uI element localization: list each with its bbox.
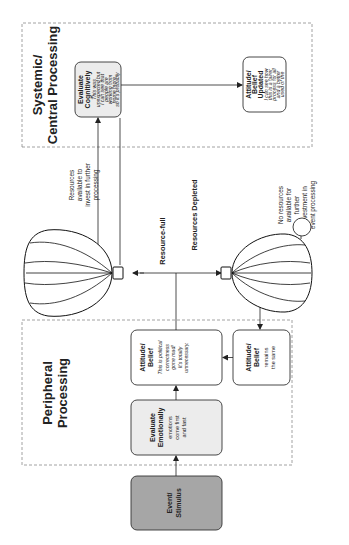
- svg-text:the same: the same: [270, 346, 276, 369]
- svg-text:and fast: and fast: [181, 417, 187, 437]
- svg-text:available to: available to: [76, 168, 83, 201]
- svg-text:Belief: Belief: [147, 347, 154, 367]
- svg-text:correctness: correctness: [164, 344, 170, 371]
- hot-air-balloon-icon: [24, 230, 123, 317]
- svg-text:further: further: [293, 195, 300, 214]
- attitude-belief-node: Attitude/ Belief This is political corre…: [131, 330, 222, 385]
- svg-text:Belief: Belief: [253, 347, 260, 367]
- svg-text:unnecessary.: unnecessary.: [183, 342, 189, 372]
- attitude-belief-updated-node: Attitude/ Belief Updated I can see how t…: [243, 57, 286, 112]
- svg-text:Stimulus: Stimulus: [175, 488, 182, 518]
- svg-text:so it's probably: so it's probably: [114, 72, 120, 107]
- evaluate-cognitively-node: Evaluate Cognitively This was unexpected…: [75, 62, 121, 117]
- svg-text:Resources: Resources: [68, 170, 75, 201]
- svg-text:Attitude/: Attitude/: [245, 343, 252, 371]
- svg-text:available for: available for: [285, 187, 292, 222]
- evaluate-emotionally-node: Evaluate Emotionally emotions come first…: [131, 400, 222, 455]
- svg-text:Evaluate: Evaluate: [149, 413, 156, 442]
- svg-text:Emotionally: Emotionally: [157, 408, 165, 448]
- svg-text:come first: come first: [174, 415, 180, 440]
- svg-text:Event/: Event/: [166, 492, 173, 513]
- event-stimulus-node: Event/ Stimulus: [131, 476, 222, 530]
- systemic-title-line2: Central Processing: [45, 26, 60, 145]
- svg-text:used of the: used of the: [279, 72, 285, 98]
- svg-text:event processing: event processing: [309, 180, 317, 229]
- peripheral-title-line2: Processing: [55, 358, 70, 428]
- resource-full-text: Resource-full: [158, 217, 167, 264]
- svg-text:Evaluate: Evaluate: [77, 75, 84, 104]
- resources-available-label: Resources available to invest in further…: [68, 162, 100, 207]
- resources-depleted-text: Resources Depleted: [190, 179, 199, 251]
- svg-text:No resources: No resources: [277, 186, 284, 224]
- systemic-title-line1: Systemic/: [30, 54, 45, 115]
- elm-processing-diagram: Peripheral Processing Systemic/ Central …: [0, 0, 349, 545]
- svg-text:emotions: emotions: [167, 416, 173, 439]
- svg-text:Attitude/: Attitude/: [139, 343, 146, 371]
- deflating-hot-air-balloon-icon: [221, 218, 312, 312]
- svg-text:gone mad!: gone mad!: [170, 345, 176, 370]
- svg-text:processing: processing: [92, 169, 100, 200]
- svg-text:It's totally: It's totally: [177, 346, 183, 368]
- svg-text:remains: remains: [263, 347, 269, 367]
- svg-text:This is political: This is political: [157, 340, 163, 375]
- attitude-belief-remains-node: Attitude/ Belief remains the same: [233, 330, 290, 385]
- peripheral-title-line1: Peripheral: [40, 361, 55, 425]
- svg-text:invest in further: invest in further: [84, 162, 91, 207]
